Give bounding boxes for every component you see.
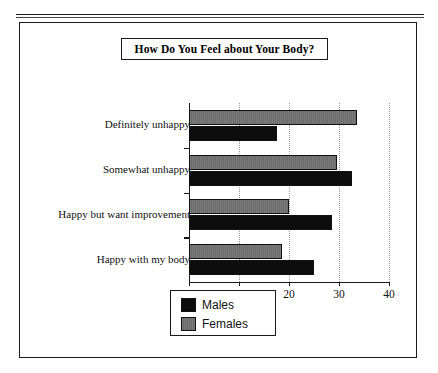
chart-legend: MalesFemales	[170, 290, 276, 336]
top-horizontal-rule	[16, 14, 424, 15]
bar-males-3	[189, 260, 314, 275]
x-tick-0	[189, 282, 190, 286]
y-tick-2	[184, 193, 189, 194]
chart-frame: How Do You Feel about Your Body? 0102030…	[19, 22, 417, 358]
bar-males-0	[189, 126, 277, 141]
bar-females-2	[189, 199, 289, 214]
y-tick-3	[184, 237, 189, 238]
category-label-0: Definitely unhappy	[5, 118, 190, 130]
legend-label-males: Males	[202, 299, 234, 311]
x-tick-10	[239, 282, 240, 286]
legend-item-males[interactable]: Males	[181, 295, 275, 314]
legend-swatch-males-icon	[181, 298, 196, 312]
legend-label-females: Females	[202, 318, 248, 330]
gridline-20	[289, 103, 291, 282]
x-tick-20	[289, 282, 290, 286]
x-tick-label-30: 30	[333, 288, 345, 300]
bar-females-1	[189, 155, 337, 170]
bar-females-0	[189, 110, 357, 125]
y-tick-1	[184, 148, 189, 149]
top-horizontal-rule-secondary	[16, 17, 424, 18]
category-label-3: Happy with my body	[5, 253, 190, 265]
x-tick-30	[339, 282, 340, 286]
bar-males-1	[189, 171, 352, 186]
x-tick-label-20: 20	[283, 288, 295, 300]
x-tick-40	[389, 282, 390, 286]
legend-item-females[interactable]: Females	[181, 314, 275, 333]
category-label-1: Somewhat unhappy	[5, 163, 190, 175]
x-tick-label-40: 40	[383, 288, 395, 300]
gridline-30	[339, 103, 341, 282]
gridline-40	[389, 103, 391, 282]
legend-swatch-females-icon	[181, 317, 196, 331]
bar-females-3	[189, 244, 282, 259]
page-title: How Do You Feel about Your Body?	[135, 43, 315, 55]
bar-males-2	[189, 215, 332, 230]
plot-area: 010203040 Definitely unhappySomewhat unh…	[20, 77, 418, 277]
category-label-2: Happy but want improvement	[5, 208, 190, 220]
chart-title-box: How Do You Feel about Your Body?	[121, 38, 328, 60]
